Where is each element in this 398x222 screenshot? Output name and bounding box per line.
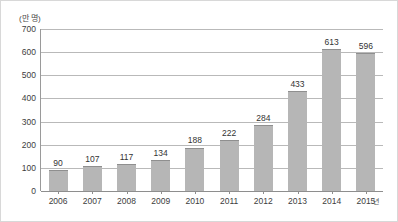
bar-value-label: 433 [280, 79, 314, 89]
bar-value-label: 117 [109, 152, 143, 162]
y-axis-tick-label: 100 [22, 163, 36, 173]
bar-value-label: 596 [349, 41, 383, 51]
bar-value-label: 90 [41, 158, 75, 168]
bar[interactable] [83, 166, 102, 191]
x-axis-label-2010: 2010 [178, 196, 212, 206]
bar-slot [117, 29, 136, 191]
x-axis-label-2008: 2008 [109, 196, 143, 206]
x-axis-tick-mark [366, 191, 367, 194]
x-axis-label-2007: 2007 [75, 196, 109, 206]
y-axis-tick-label: 400 [22, 93, 36, 103]
bar-chart: (만 명) 0100200300400500600700902006107200… [0, 0, 398, 222]
x-axis-label-2012: 2012 [246, 196, 280, 206]
x-axis-tick-mark [127, 191, 128, 194]
y-axis-unit-label: (만 명) [19, 12, 41, 23]
y-axis-tick-label: 0 [31, 186, 36, 196]
bar-slot [356, 29, 375, 191]
bar-value-label: 284 [246, 113, 280, 123]
bar-slot [288, 29, 307, 191]
x-axis-label-2011: 2011 [212, 196, 246, 206]
bar-value-label: 107 [75, 154, 109, 164]
bar[interactable] [356, 53, 375, 191]
y-axis-tick-label: 300 [22, 117, 36, 127]
x-axis-label-2013: 2013 [280, 196, 314, 206]
bar-slot [254, 29, 273, 191]
bar[interactable] [254, 125, 273, 191]
x-axis-tick-mark [92, 191, 93, 194]
bar-value-label: 222 [212, 128, 246, 138]
x-axis-tick-mark [298, 191, 299, 194]
bar-slot [322, 29, 341, 191]
bar[interactable] [220, 140, 239, 191]
bar-slot [220, 29, 239, 191]
bar-slot [185, 29, 204, 191]
bar-slot [83, 29, 102, 191]
bar[interactable] [117, 164, 136, 191]
y-axis-tick-label: 600 [22, 47, 36, 57]
y-axis-tick-label: 200 [22, 140, 36, 150]
y-axis-tick-label: 500 [22, 70, 36, 80]
x-axis-label-2006: 2006 [41, 196, 75, 206]
bar[interactable] [151, 160, 170, 191]
bar-value-label: 613 [315, 37, 349, 47]
bar-slot [151, 29, 170, 191]
x-axis-label-2009: 2009 [144, 196, 178, 206]
x-axis-tick-mark [332, 191, 333, 194]
bar[interactable] [49, 170, 68, 191]
x-axis-tick-mark [229, 191, 230, 194]
x-axis-unit-suffix: 년 [373, 196, 379, 206]
x-axis-tick-mark [195, 191, 196, 194]
plot-area: 0100200300400500600700902006107200711720… [41, 29, 383, 191]
bar[interactable] [185, 148, 204, 192]
y-axis-tick-label: 700 [22, 24, 36, 34]
bar-value-label: 188 [178, 135, 212, 145]
x-axis-label-2014: 2014 [315, 196, 349, 206]
x-axis-tick-mark [161, 191, 162, 194]
x-axis-tick-mark [263, 191, 264, 194]
bar[interactable] [322, 49, 341, 191]
bar-value-label: 134 [144, 148, 178, 158]
bar[interactable] [288, 91, 307, 191]
x-axis-tick-mark [58, 191, 59, 194]
